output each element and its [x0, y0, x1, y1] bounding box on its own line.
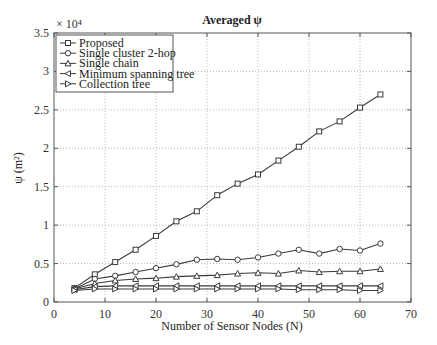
x-tick-label: 70 [405, 307, 417, 321]
y-tick-label: 2 [43, 141, 49, 155]
y-tick-label: 1 [43, 218, 49, 232]
chart-title: Averaged ψ [202, 13, 262, 27]
x-tick-label: 20 [150, 307, 162, 321]
y-tick-label: 3 [43, 64, 49, 78]
legend-label: Collection tree [79, 77, 150, 91]
y-tick-label: 3.5 [34, 26, 49, 40]
legend: ProposedSingle cluster 2-hopSingle chain… [56, 35, 194, 92]
x-axis-label: Number of Sensor Nodes (N) [161, 319, 302, 333]
y-multiplier: × 10⁴ [56, 17, 82, 31]
x-tick-label: 60 [354, 307, 366, 321]
y-axis-label: ψ (m²) [11, 152, 25, 183]
x-tick-label: 50 [303, 307, 315, 321]
series-collection-tree [72, 286, 384, 294]
y-tick-label: 1.5 [34, 180, 49, 194]
x-tick-label: 10 [99, 307, 111, 321]
y-tick-label: 0 [43, 295, 49, 309]
series-minimum-spanning-tree [71, 283, 383, 293]
line-chart: 01020304050607000.511.522.533.5 Averaged… [0, 0, 437, 345]
series-single-cluster-2-hop [72, 241, 383, 292]
y-tick-label: 2.5 [34, 103, 49, 117]
y-tick-label: 0.5 [34, 257, 49, 271]
x-tick-label: 0 [51, 307, 57, 321]
series-proposed [72, 92, 383, 291]
